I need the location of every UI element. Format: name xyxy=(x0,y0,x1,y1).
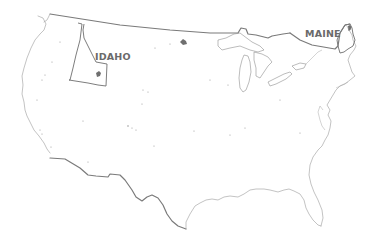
scattered-features xyxy=(36,41,300,162)
idaho-label: IDAHO xyxy=(95,51,131,62)
map-canvas: IDAHO MAINE xyxy=(0,0,380,240)
gulf-coastline xyxy=(186,189,321,229)
canada-border xyxy=(50,14,290,38)
lake-huron xyxy=(254,52,272,78)
chesapeake-bay xyxy=(318,106,325,130)
st-lawrence xyxy=(306,50,322,64)
montana-marker xyxy=(180,39,187,45)
puget-sound xyxy=(44,14,50,22)
long-island xyxy=(336,82,348,88)
us-map: IDAHO MAINE xyxy=(0,0,380,240)
mexico-border xyxy=(50,158,186,229)
lake-michigan xyxy=(239,55,251,92)
lake-ontario xyxy=(292,63,306,70)
maine-label: MAINE xyxy=(305,28,341,39)
lake-erie xyxy=(268,72,292,86)
idaho-marker xyxy=(96,71,101,77)
pacific-coastline xyxy=(22,16,50,153)
atlantic-coastline xyxy=(309,26,356,226)
